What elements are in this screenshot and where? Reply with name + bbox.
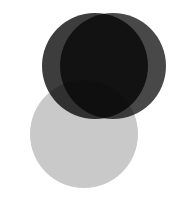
venn-diagram-canvas: Three-circle overlapping Venn diagram — [0, 0, 178, 203]
venn-figure: Three-circle overlapping Venn diagram — [0, 0, 178, 203]
venn-circle-set-c[interactable] — [30, 80, 138, 188]
